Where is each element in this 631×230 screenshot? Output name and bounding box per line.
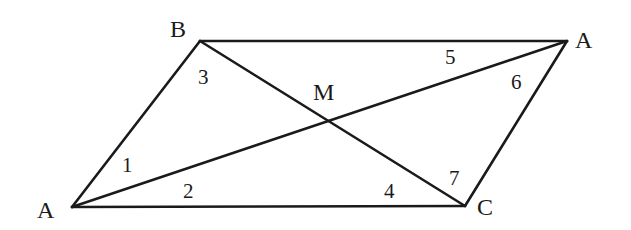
diagonal-A-A <box>72 41 567 207</box>
angle-label-4: 4 <box>384 179 395 203</box>
side-A-B <box>72 41 200 207</box>
angle-label-1: 1 <box>122 153 133 177</box>
diagonal-B-C <box>200 41 465 206</box>
side-C-A <box>72 206 465 207</box>
parallelogram-diagram: B A A C M 1 2 3 4 5 6 7 <box>0 0 631 230</box>
vertex-label-A-right: A <box>575 27 593 53</box>
segments <box>72 41 567 207</box>
vertex-label-A-left: A <box>37 197 55 223</box>
angle-label-2: 2 <box>183 179 194 203</box>
angle-label-5: 5 <box>445 45 456 69</box>
vertex-label-M: M <box>313 79 334 105</box>
angle-label-3: 3 <box>198 65 209 89</box>
angle-label-7: 7 <box>449 166 460 190</box>
angle-label-6: 6 <box>511 70 522 94</box>
side-A-C <box>465 41 567 206</box>
vertex-label-B: B <box>170 16 186 42</box>
vertex-label-C: C <box>477 194 493 220</box>
